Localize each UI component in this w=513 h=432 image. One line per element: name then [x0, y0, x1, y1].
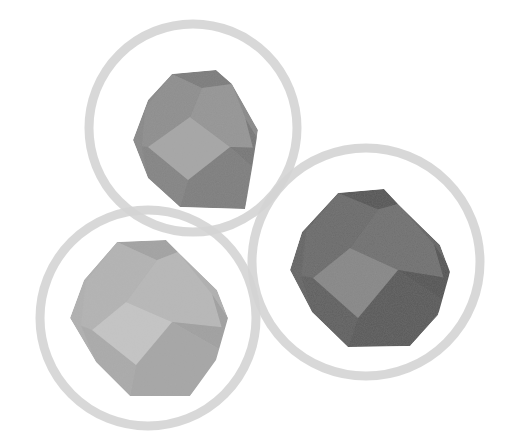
polyhedron-bottom-left [70, 240, 228, 396]
illustration-canvas: Three truncated octahedra in rings [0, 0, 513, 432]
polyhedra-illustration [0, 0, 513, 432]
polyhedron-right [290, 189, 450, 347]
polyhedron-top [133, 70, 258, 209]
